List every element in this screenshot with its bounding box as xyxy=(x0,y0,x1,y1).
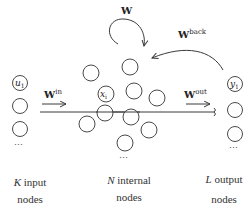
wout-label: Wout xyxy=(183,88,207,100)
reservoir-caption-line1: N internal xyxy=(106,174,151,186)
reservoir: xi ⋯ xyxy=(79,59,165,163)
output-caption-line1: L output xyxy=(205,173,243,185)
input-caption-line1: K input xyxy=(13,176,47,188)
output-node xyxy=(228,103,243,118)
recurrent-weight-label: W xyxy=(120,5,133,16)
reservoir-node xyxy=(149,90,165,106)
reservoir-node xyxy=(83,65,99,81)
output-caption-line2: nodes xyxy=(211,193,237,205)
wback-label: Wback xyxy=(177,28,207,40)
reservoir-caption-line2: nodes xyxy=(116,191,142,203)
reservoir-node xyxy=(126,83,142,99)
reservoir-node xyxy=(117,135,133,151)
esn-diagram: Win Wout W Wback u1 ⋯ xi ⋯ y1 ⋯ xyxy=(0,0,252,213)
reservoir-node xyxy=(141,122,157,138)
wback-arrow-icon xyxy=(152,50,223,70)
input-layer: u1 ⋯ xyxy=(13,76,28,151)
win-label: Win xyxy=(43,88,62,100)
input-node xyxy=(13,122,28,137)
input-caption-line2: nodes xyxy=(17,193,43,205)
reservoir-node xyxy=(122,59,138,75)
reservoir-ellipsis: ⋯ xyxy=(119,153,128,163)
output-brace-icon xyxy=(214,108,216,116)
output-ellipsis: ⋯ xyxy=(229,143,238,153)
recurrent-loop-arrow-icon xyxy=(109,19,144,46)
reservoir-node xyxy=(97,105,113,121)
input-ellipsis: ⋯ xyxy=(14,140,23,150)
output-node xyxy=(228,127,243,142)
reservoir-node xyxy=(123,109,139,125)
output-layer: y1 ⋯ xyxy=(228,77,243,154)
input-node xyxy=(13,99,28,114)
reservoir-node xyxy=(79,116,95,132)
